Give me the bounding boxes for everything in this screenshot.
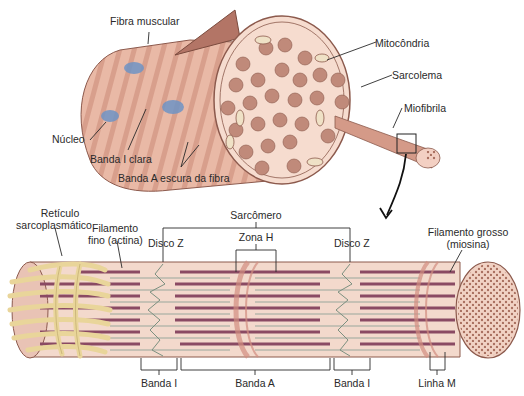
label-banda-i-left: Banda I [129, 377, 189, 389]
label-filamento-grosso-line2: (miosina) [418, 238, 518, 250]
label-banda-a: Banda A [225, 377, 285, 389]
label-miofibrila: Miofibrila [404, 102, 446, 114]
label-disco-z-left: Disco Z [148, 237, 184, 249]
label-banda-i-right: Banda I [322, 377, 382, 389]
label-reticulo-line2: sarcoplasmático [6, 219, 102, 231]
label-filamento-fino-line1: Filamento [92, 222, 138, 234]
label-banda-i-clara: Banda I clara [90, 153, 152, 165]
label-filamento-grosso-line1: Filamento grosso [418, 226, 518, 238]
fiber-cross-section [214, 16, 350, 184]
label-nucleo: Núcleo [52, 133, 85, 145]
nucleus-1 [124, 62, 144, 74]
label-filamento-fino-line2: fino (actina) [88, 234, 143, 246]
myofibril [335, 116, 440, 218]
nucleus-2 [162, 100, 184, 114]
label-mitocondria: Mitocôndria [375, 37, 429, 49]
muscle-structure-diagram [0, 0, 524, 396]
label-banda-a-escura: Banda A escura da fibra [118, 172, 230, 184]
label-zona-h: Zona H [226, 231, 286, 243]
label-sarcolema: Sarcolema [392, 69, 442, 81]
nucleus-3 [101, 110, 119, 122]
label-reticulo-line1: Retículo [12, 207, 108, 219]
label-fibra-muscular: Fibra muscular [110, 15, 179, 27]
label-sarcomero: Sarcômero [216, 209, 296, 221]
label-disco-z-right: Disco Z [334, 237, 370, 249]
label-linha-m: Linha M [407, 377, 467, 389]
mitochondrion [315, 54, 329, 62]
